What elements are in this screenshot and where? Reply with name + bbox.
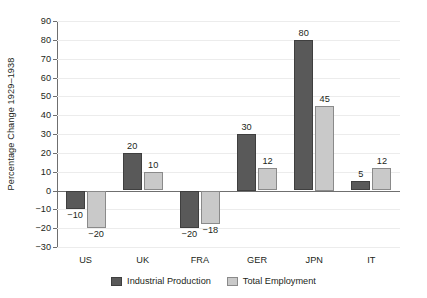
y-tick-mark: [53, 247, 57, 248]
y-tick-label: 20: [41, 148, 51, 158]
y-tick-label: 0: [46, 186, 51, 196]
x-tick-label: FRA: [191, 255, 209, 265]
x-tick-label: UK: [136, 255, 149, 265]
bar-group: −20−18: [171, 21, 228, 247]
bar-value-label: 30: [241, 122, 251, 132]
y-tick-label: 40: [41, 110, 51, 120]
bar[interactable]: [372, 168, 391, 191]
bar[interactable]: [315, 106, 334, 191]
y-tick-label: 10: [41, 167, 51, 177]
bar-value-label: 12: [377, 156, 387, 166]
legend-item[interactable]: Total Employment: [227, 276, 316, 286]
bar[interactable]: [144, 172, 163, 191]
bar-group: 8045: [286, 21, 343, 247]
bar[interactable]: [351, 181, 370, 190]
x-tick-label: GER: [247, 255, 267, 265]
plot-area: −30−20−100102030405060708090 −10−202010−…: [57, 21, 400, 247]
bar-group: 2010: [114, 21, 171, 247]
bar-value-label: −10: [67, 210, 83, 220]
legend-swatch-icon: [111, 277, 122, 286]
y-axis-title: Percentage Change 1929–1938: [0, 0, 22, 248]
bar-value-label: −20: [182, 229, 198, 239]
y-tick-label: −10: [35, 204, 51, 214]
bar-value-label: 45: [320, 94, 330, 104]
bar-value-label: −20: [88, 229, 104, 239]
bar[interactable]: [66, 191, 85, 210]
y-tick-label: 60: [41, 73, 51, 83]
bar-value-label: −18: [203, 225, 219, 235]
legend-label: Total Employment: [243, 276, 316, 286]
bar-value-label: 5: [358, 169, 363, 179]
y-tick-label: −30: [35, 242, 51, 252]
y-tick-label: 80: [41, 35, 51, 45]
chart-legend: Industrial ProductionTotal Employment: [0, 276, 427, 286]
gridline: [57, 247, 400, 248]
x-tick-label: IT: [367, 255, 375, 265]
legend-label: Industrial Production: [127, 276, 211, 286]
legend-swatch-icon: [227, 277, 238, 286]
bar-value-label: 80: [299, 28, 309, 38]
bar[interactable]: [294, 40, 313, 191]
y-tick-label: 90: [41, 16, 51, 26]
bar-group: −10−20: [57, 21, 114, 247]
x-tick-label: US: [79, 255, 92, 265]
bar-group: 512: [343, 21, 400, 247]
y-tick-label: 70: [41, 54, 51, 64]
bar[interactable]: [87, 191, 106, 229]
y-tick-label: 30: [41, 129, 51, 139]
legend-item[interactable]: Industrial Production: [111, 276, 211, 286]
bar[interactable]: [123, 153, 142, 191]
bar-group: 3012: [229, 21, 286, 247]
bar-value-label: 20: [127, 141, 137, 151]
bar[interactable]: [237, 134, 256, 191]
bar-value-label: 10: [148, 160, 158, 170]
x-tick-label: JPN: [306, 255, 323, 265]
bar[interactable]: [180, 191, 199, 229]
bar-chart-figure: Percentage Change 1929–1938 −30−20−10010…: [0, 0, 427, 298]
bar[interactable]: [258, 168, 277, 191]
bar-value-label: 12: [262, 156, 272, 166]
y-tick-label: −20: [35, 223, 51, 233]
y-tick-label: 50: [41, 91, 51, 101]
bar[interactable]: [201, 191, 220, 225]
y-axis-title-text: Percentage Change 1929–1938: [6, 58, 16, 191]
